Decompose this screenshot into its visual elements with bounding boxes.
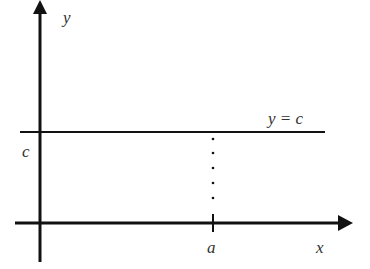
x-axis-arrow-icon: [338, 215, 353, 231]
y-axis-arrow-icon: [33, 0, 47, 14]
y-axis-label: y: [61, 8, 71, 27]
line-label: y = c: [266, 109, 304, 128]
dotted-guide: [212, 138, 215, 200]
x-point-label: a: [207, 238, 216, 257]
graph-canvas: y x y = c c a: [0, 0, 370, 269]
x-axis: [15, 215, 353, 231]
y-intercept-label: c: [22, 142, 30, 161]
x-axis-label: x: [315, 238, 324, 257]
